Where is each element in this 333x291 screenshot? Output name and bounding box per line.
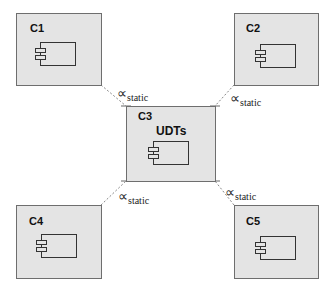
component-c3-sublabel: UDTs [156,124,186,138]
component-icon [153,141,189,165]
component-c4[interactable]: C4 [16,205,102,279]
connector-label-c2-c3: ∝static [230,90,261,108]
component-icon [40,42,76,66]
component-c3-label: C3 [138,110,152,122]
connector-label-c1-c3: ∝static [117,85,148,103]
component-c2[interactable]: C2 [234,13,319,86]
component-c1[interactable]: C1 [16,13,102,86]
connector-label-c5-c3: ∝static [225,184,256,202]
component-diagram: C1 C2 C3 UDTs C4 C5 ∝static ∝st [0,0,333,291]
component-icon [260,236,296,260]
connector-label-c4-c3: ∝static [118,188,149,206]
component-c5[interactable]: C5 [234,205,319,279]
component-c5-label: C5 [246,215,260,227]
component-c1-label: C1 [30,22,44,34]
component-icon [41,234,77,258]
component-c3[interactable]: C3 UDTs [126,106,216,182]
component-c4-label: C4 [29,215,43,227]
component-icon [260,44,296,68]
component-c2-label: C2 [246,22,260,34]
